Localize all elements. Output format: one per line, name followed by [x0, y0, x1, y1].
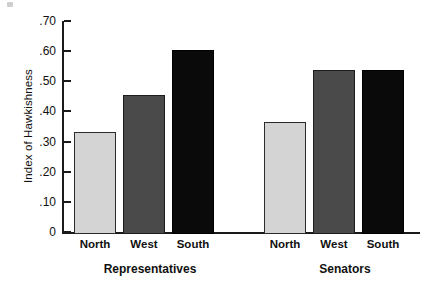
y-tick-label: .20 [16, 166, 56, 178]
y-tick-label: .40 [16, 105, 56, 117]
bar-senators-south [362, 70, 404, 234]
scan-artifact [7, 2, 13, 7]
y-tick-label: .30 [16, 136, 56, 148]
y-tick-label: .50 [16, 75, 56, 87]
group-label-representatives: Representatives [60, 262, 240, 276]
group-label-senators: Senators [255, 262, 427, 276]
y-tick-label: .60 [16, 45, 56, 57]
x-tick-label: South [158, 238, 228, 250]
bar-representatives-south [172, 50, 214, 234]
bar-representatives-west [123, 95, 165, 234]
x-tick-label: South [348, 238, 418, 250]
y-axis-title: Index of Hawkishness [22, 46, 34, 206]
y-tick-label: 0 [16, 226, 56, 238]
y-tick-label: .10 [16, 196, 56, 208]
bar-senators-west [313, 70, 355, 234]
y-tick-label: .70 [16, 15, 56, 27]
plot-area [64, 21, 420, 234]
bar-representatives-north [74, 132, 116, 234]
bar-chart: Index of Hawkishness .70.60.50.40.30.20.… [0, 0, 427, 286]
bar-senators-north [264, 122, 306, 234]
